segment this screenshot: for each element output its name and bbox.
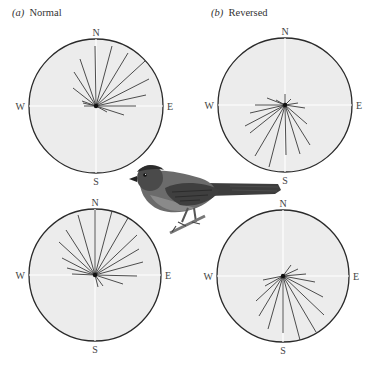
orientation-disc-top-left: NSWE	[16, 27, 174, 187]
south-label: S	[93, 176, 99, 187]
east-label: E	[165, 270, 171, 281]
center-dot	[94, 104, 98, 108]
south-label: S	[280, 345, 286, 356]
north-label: N	[92, 27, 99, 38]
east-label: E	[353, 271, 359, 282]
figure: (a) Normal (b) Reversed NSWENSWENSWENSWE	[0, 0, 376, 366]
center-dot	[283, 103, 287, 107]
center-dot	[281, 274, 285, 278]
east-label: E	[167, 101, 173, 112]
north-label: N	[91, 197, 98, 208]
north-label: N	[281, 26, 288, 37]
west-label: W	[16, 101, 26, 112]
west-label: W	[205, 100, 215, 111]
center-dot	[93, 273, 97, 277]
west-label: W	[204, 271, 214, 282]
orientation-plots: NSWENSWENSWENSWE	[0, 0, 376, 366]
east-label: E	[356, 100, 362, 111]
orientation-disc-top-right: NSWE	[205, 26, 363, 186]
west-label: W	[16, 270, 26, 281]
south-label: S	[92, 344, 98, 355]
orientation-disc-bottom-left: NSWE	[16, 197, 172, 355]
south-label: S	[282, 175, 288, 186]
orientation-disc-bottom-right: NSWE	[204, 198, 360, 356]
north-label: N	[279, 198, 286, 209]
